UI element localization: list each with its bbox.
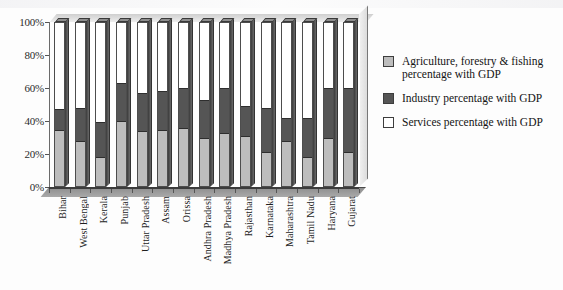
bar-segment-serv[interactable] [303,23,312,118]
bar-side-face [65,18,69,187]
bar-segment-agri[interactable] [76,142,85,186]
x-axis-tick-mark [70,189,71,193]
legend-item[interactable]: Services percentage with GDP [383,116,559,129]
bar-segment-serv[interactable] [76,23,85,108]
bar-segment-ind[interactable] [200,100,209,139]
bar-segment-agri[interactable] [179,129,188,186]
bar-segment-agri[interactable] [55,131,64,186]
bar-segment-agri[interactable] [324,139,333,186]
bar-segment-serv[interactable] [220,23,229,88]
bar-segment-ind[interactable] [117,83,126,122]
bar-segment-ind[interactable] [282,118,291,142]
bar-side-face [127,18,131,187]
bar-column[interactable] [95,22,108,187]
x-axis-label: Andhra Pradesh [202,196,213,262]
bar-segment-serv[interactable] [262,23,271,108]
y-axis-tick-label: 80% [24,49,44,61]
x-axis-tick-mark [214,189,215,193]
x-axis-tick-mark [90,189,91,193]
stacked-bar[interactable] [75,22,86,187]
bar-segment-ind[interactable] [220,88,229,134]
bar-segment-agri[interactable] [241,137,250,186]
bar-side-face [106,18,110,187]
stacked-bar[interactable] [116,22,127,187]
bar-column[interactable] [281,22,294,187]
stacked-bar[interactable] [54,22,65,187]
bar-segment-serv[interactable] [158,23,167,91]
bar-segment-ind[interactable] [241,106,250,137]
chart-legend: Agriculture, forestry & fishing percenta… [383,55,559,140]
stacked-bar[interactable] [323,22,334,187]
bar-segment-ind[interactable] [324,88,333,139]
bar-segment-serv[interactable] [200,23,209,100]
bar-segment-agri[interactable] [117,122,126,186]
stacked-bar[interactable] [199,22,210,187]
bar-segment-ind[interactable] [158,91,167,130]
bar-side-face [251,18,255,187]
bar-segment-ind[interactable] [179,88,188,129]
stacked-bar[interactable] [281,22,292,187]
bar-segment-ind[interactable] [303,118,312,159]
bar-segment-agri[interactable] [303,158,312,186]
bar-segment-agri[interactable] [200,139,209,186]
bar-segment-ind[interactable] [138,93,147,132]
stacked-bar[interactable] [178,22,189,187]
bar-segment-agri[interactable] [282,142,291,186]
bar-side-face [210,18,214,187]
bar-column[interactable] [240,22,253,187]
bar-column[interactable] [178,22,191,187]
scan-noise-artifact [0,0,563,8]
bar-segment-ind[interactable] [96,122,105,158]
legend-item[interactable]: Agriculture, forestry & fishing percenta… [383,55,559,81]
bar-segment-serv[interactable] [55,23,64,109]
bar-column[interactable] [157,22,170,187]
bar-segment-ind[interactable] [344,88,353,153]
bar-segment-agri[interactable] [138,132,147,186]
bar-side-face [168,18,172,187]
stacked-bar[interactable] [219,22,230,187]
stacked-bar[interactable] [261,22,272,187]
stacked-bar[interactable] [343,22,354,187]
bar-column[interactable] [137,22,150,187]
bar-column[interactable] [261,22,274,187]
stacked-bar[interactable] [137,22,148,187]
legend-swatch-ind [383,93,394,104]
x-axis-label: Gujarat [346,196,357,227]
bar-segment-agri[interactable] [158,131,167,186]
bar-segment-serv[interactable] [282,23,291,118]
bar-column[interactable] [343,22,356,187]
legend-swatch-agri [383,56,394,67]
legend-label: Industry percentage with GDP [402,92,559,105]
bar-column[interactable] [199,22,212,187]
x-axis-tick-mark [132,189,133,193]
bar-segment-serv[interactable] [117,23,126,83]
x-axis-tick-mark [111,189,112,193]
bar-column[interactable] [323,22,336,187]
bar-segment-ind[interactable] [76,108,85,142]
bar-segment-serv[interactable] [138,23,147,93]
bar-segment-serv[interactable] [324,23,333,88]
bar-column[interactable] [302,22,315,187]
bar-segment-agri[interactable] [344,153,353,186]
bar-segment-agri[interactable] [220,134,229,186]
bar-side-face [313,18,317,187]
x-axis-label: Tamil Nadu [305,196,316,244]
bar-column[interactable] [75,22,88,187]
bar-segment-ind[interactable] [55,109,64,130]
bar-column[interactable] [54,22,67,187]
stacked-bar[interactable] [302,22,313,187]
stacked-bar[interactable] [157,22,168,187]
bar-segment-serv[interactable] [179,23,188,88]
stacked-bar[interactable] [240,22,251,187]
bar-segment-serv[interactable] [344,23,353,88]
bar-segment-ind[interactable] [262,108,271,154]
stacked-bar[interactable] [95,22,106,187]
bar-column[interactable] [116,22,129,187]
y-axis: 0%20%40%60%80%100% [0,0,44,290]
bar-segment-agri[interactable] [96,158,105,186]
bar-segment-serv[interactable] [241,23,250,106]
bar-segment-serv[interactable] [96,23,105,122]
bar-segment-agri[interactable] [262,153,271,186]
bar-column[interactable] [219,22,232,187]
legend-item[interactable]: Industry percentage with GDP [383,92,559,105]
